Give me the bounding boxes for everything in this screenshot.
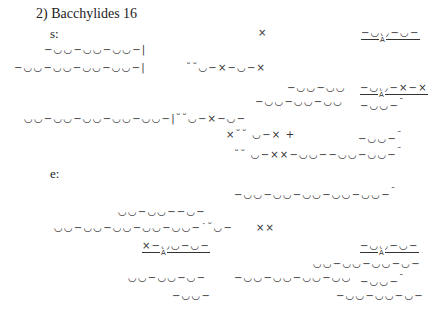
epode-label: e:	[50, 166, 59, 182]
colon-text: ˘˘◡−×−◡−×	[186, 62, 266, 73]
metrical-colon: ˘˘ ◡−××−◡◡−−◡◡−◡◡−¯	[234, 145, 403, 161]
colon-text: −◡◡−◡◡−◡◡−◡◡−◡◡−	[234, 189, 391, 200]
brevis-in-longo-mark: ¯	[397, 146, 403, 156]
colon-text: ◡◡−◡◡−◡◡−◡−	[313, 258, 421, 269]
anaclasis-mark: A	[378, 249, 385, 257]
metrical-colon: ××	[256, 222, 275, 234]
brevis-in-longo-mark: ¯	[399, 273, 405, 283]
colon-text: ×	[258, 27, 268, 38]
metrical-colon: ×˘˘ ◡−× +	[226, 129, 295, 141]
colon-text: −◡◡−	[358, 133, 397, 144]
metrical-colon: −◡◡−¯	[360, 272, 405, 288]
brevis-in-longo-mark: ¯	[397, 130, 403, 140]
colon-text: −◡◡−	[172, 290, 211, 301]
colon-text: −◡◡−◡◡−◡◡−◡◡−|	[14, 62, 146, 73]
metrical-colon: −◡◡−◡◡	[287, 82, 346, 94]
brevis-in-longo-mark: ¯	[391, 186, 397, 196]
metrical-colon: −◡◡−◡◡−◡−	[336, 290, 424, 302]
colon-text: −◡◡−◡◡	[287, 82, 346, 93]
metrical-colon: −◡◡−◡◡−◡◡−◡◡−◡◡−¯	[234, 185, 396, 201]
metrical-colon: −◡◡−◡◡−◡◡−◡◡−|	[14, 62, 146, 74]
colon-text: −◡◡−◡◡−◡◡−◡◡	[234, 272, 352, 283]
metrical-colon: −◡◡−◡−A	[360, 240, 419, 252]
metrical-colon: ×−◡◡−◡−A	[142, 240, 210, 252]
colon-text: −◡◡−◡◡−◡◡−|	[44, 44, 146, 55]
metrical-colon: ◡◡−◡◡−◡◡−◡◡−◡◡−|˘˘◡−×−◡−	[24, 113, 246, 125]
page-title: 2) Bacchylides 16	[36, 6, 137, 22]
colon-text: ◡◡−◡◡−◡◡−◡◡−◡◡−˙˘◡−	[54, 222, 233, 233]
metrical-colon: −◡◡−◡−A	[361, 27, 420, 39]
colon-text: ◡◡−◡◡−◡−	[128, 272, 206, 283]
colon-text: ◡◡−◡◡−−◡−	[118, 206, 206, 217]
colon-text: −◡◡−×−×	[360, 82, 428, 95]
colon-text: −◡◡−	[360, 100, 399, 111]
colon-text: ×˘˘ ◡−× +	[226, 129, 295, 140]
metrical-colon: ˘˘◡−×−◡−×	[186, 62, 266, 74]
colon-text: ◡◡−◡◡−◡◡−◡◡−◡◡−|˘˘◡−×−◡−	[24, 113, 246, 124]
anaclasis-mark: A	[379, 36, 386, 44]
metrical-colon: ◡◡−◡◡−◡◡−◡◡−◡◡−˙˘◡−	[54, 222, 233, 234]
metrical-colon: −◡◡−×−×A	[360, 82, 428, 94]
metrical-colon: −◡◡−◡◡−◡◡−|	[44, 44, 146, 56]
colon-text: ××	[256, 222, 275, 233]
metrical-colon: ◡◡−◡◡−−◡−	[118, 206, 206, 218]
brevis-in-longo-mark: ¯	[399, 97, 405, 107]
metrical-colon: −◡◡−¯	[358, 129, 403, 145]
metrical-colon: −◡◡−◡◡−◡◡	[255, 96, 343, 108]
strophe-label: s:	[50, 26, 59, 42]
colon-text: ×−◡◡−◡−	[142, 240, 210, 253]
metrical-colon: −◡◡−◡◡−◡◡−◡◡	[234, 272, 352, 284]
colon-text: −◡◡−	[360, 276, 399, 287]
colon-text: −◡◡−◡−	[360, 240, 419, 253]
colon-text: −◡◡−◡−	[361, 27, 420, 40]
colon-text: −◡◡−◡◡−◡−	[336, 290, 424, 301]
metrical-colon: −◡◡−	[172, 290, 211, 302]
metrical-colon: −◡◡−¯	[360, 96, 405, 112]
colon-text: ˘˘ ◡−××−◡◡−−◡◡−◡◡−	[234, 149, 397, 160]
colon-text: −◡◡−◡◡−◡◡	[255, 96, 343, 107]
anaclasis-mark: A	[160, 249, 167, 257]
metrical-colon: ◡◡−◡◡−◡−	[128, 272, 206, 284]
metrical-colon: ◡◡−◡◡−◡◡−◡−	[313, 258, 421, 270]
metrical-colon: ×	[258, 27, 268, 39]
